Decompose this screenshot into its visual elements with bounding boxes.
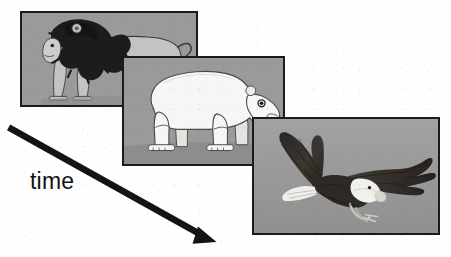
time-caption: time: [30, 170, 74, 193]
bald-eagle-photo: [254, 119, 438, 233]
panel-bald-eagle[interactable]: [252, 117, 440, 235]
figure-canvas: time: [0, 0, 451, 257]
